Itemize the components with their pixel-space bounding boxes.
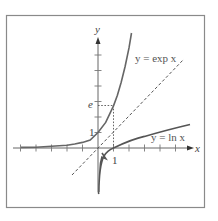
exp-curve-label: y = exp x <box>135 52 177 64</box>
x-axis-label: x <box>194 142 200 154</box>
ln-curve-label: y = ln x <box>151 131 186 143</box>
exp-curve <box>21 33 132 147</box>
x-axis-arrow-icon <box>187 146 194 151</box>
y-one-label: 1 <box>89 126 95 138</box>
y-axis-arrow-icon <box>96 37 101 44</box>
identity-line-y-equals-x <box>72 59 184 175</box>
function-graph-figure: y x e 1 1 y = exp x y = ln x <box>0 0 218 221</box>
figure-frame <box>7 16 205 208</box>
x-one-label: 1 <box>112 154 118 166</box>
graph-canvas: y x e 1 1 y = exp x y = ln x <box>0 0 218 221</box>
e-tick-label: e <box>88 98 93 110</box>
y-axis-label: y <box>94 23 100 35</box>
